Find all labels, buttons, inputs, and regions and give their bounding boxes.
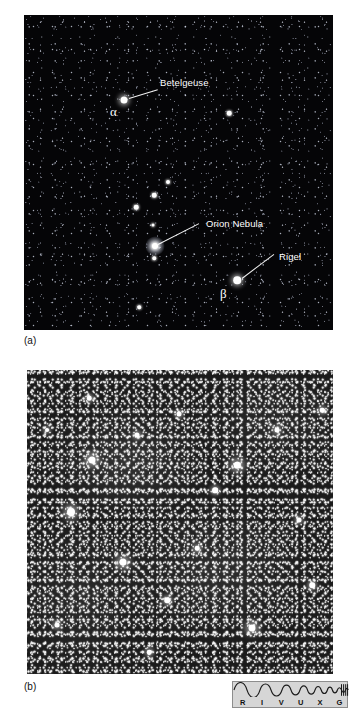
spectrum-label-u: U (291, 699, 310, 707)
label-beta-symbol: β (220, 287, 227, 300)
panel-a-caption: (a) (24, 336, 36, 346)
star-nebula-companion (152, 256, 156, 260)
bright-cluster-star (275, 428, 280, 433)
label-alpha-symbol: α (110, 105, 117, 118)
spectrum-label-row: R I V U X G (233, 697, 349, 708)
bright-cluster-star (147, 650, 152, 655)
bright-cluster-star (320, 408, 325, 413)
bright-cluster-star (212, 487, 218, 493)
bright-cluster-star (309, 582, 315, 588)
label-betelgeuse: Betelgeuse (160, 78, 209, 88)
bright-cluster-star (120, 559, 127, 566)
star-betelgeuse (121, 97, 128, 104)
star-rigel (233, 276, 241, 284)
rivuxg-spectrum-indicator: R I V U X G (232, 681, 348, 708)
star-field-background-a-fine (24, 15, 333, 330)
bright-cluster-star (89, 457, 96, 464)
star-bellatrix (227, 111, 232, 116)
bright-cluster-star (67, 508, 75, 516)
spectrum-label-v: V (272, 699, 291, 707)
spectrum-label-i: I (252, 699, 271, 707)
astronomy-figure: Betelgeuse α Orion Nebula Rigel β (a) (b… (0, 0, 350, 712)
star-belt-middle (152, 193, 157, 198)
bright-cluster-star (177, 412, 182, 417)
label-rigel: Rigel (279, 252, 301, 262)
star-sword-upper (152, 224, 155, 227)
bright-cluster-star (87, 396, 92, 401)
spectrum-label-r: R (233, 699, 252, 707)
star-belt-lower (134, 205, 139, 210)
bright-cluster-star (55, 623, 60, 628)
star-belt-upper (166, 180, 170, 184)
panel-b-caption: (b) (24, 682, 36, 692)
star-saiph (137, 305, 141, 309)
bright-cluster-star (234, 462, 241, 469)
bright-cluster-star (164, 597, 170, 603)
spectrum-wave-icon (233, 682, 349, 697)
bright-cluster-star (297, 518, 302, 523)
bright-cluster-star (135, 433, 140, 438)
label-orion-nebula: Orion Nebula (206, 219, 263, 229)
panel-a-orion-wide-field: Betelgeuse α Orion Nebula Rigel β (24, 15, 333, 330)
bright-cluster-star (249, 625, 256, 632)
spectrum-label-g: G (330, 699, 349, 707)
bright-cluster-star (195, 546, 200, 551)
bright-cluster-star (45, 428, 49, 432)
spectrum-label-x: X (310, 699, 329, 707)
panel-b-dense-star-cluster (27, 370, 333, 674)
